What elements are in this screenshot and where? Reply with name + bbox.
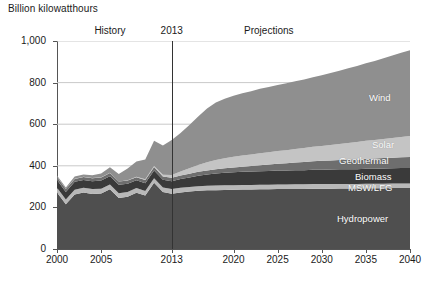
x-tick-label: 2000 bbox=[37, 254, 77, 265]
annotation-projections: Projections bbox=[244, 25, 293, 36]
x-tick-label: 2035 bbox=[346, 254, 386, 265]
x-tick-label: 2005 bbox=[81, 254, 121, 265]
x-tick-mark bbox=[101, 249, 102, 253]
x-tick-label: 2020 bbox=[214, 254, 254, 265]
y-tick-label: 600 bbox=[0, 118, 46, 129]
x-tick-mark bbox=[366, 249, 367, 253]
y-tick-label: 0 bbox=[0, 243, 46, 254]
x-tick-mark bbox=[410, 249, 411, 253]
y-tick-label: 800 bbox=[0, 77, 46, 88]
x-tick-mark bbox=[57, 249, 58, 253]
series-label-mswlfg: MSW/LFG bbox=[348, 182, 392, 193]
series-label-hydropower: Hydropower bbox=[337, 213, 388, 224]
series-label-wind: Wind bbox=[369, 92, 391, 103]
y-axis-title: Billion kilowatthours bbox=[8, 3, 98, 14]
annotation-divider-year: 2013 bbox=[161, 25, 183, 36]
y-tick-label: 400 bbox=[0, 160, 46, 171]
series-label-geothermal: Geothermal bbox=[339, 155, 389, 166]
x-tick-mark bbox=[234, 249, 235, 253]
x-tick-label: 2013 bbox=[152, 254, 192, 265]
annotation-history: History bbox=[94, 25, 125, 36]
x-tick-label: 2040 bbox=[390, 254, 426, 265]
series-label-biomass: Biomass bbox=[355, 171, 391, 182]
x-tick-mark bbox=[172, 249, 173, 253]
y-tick-label: 1,000 bbox=[0, 35, 46, 46]
projection-divider-line bbox=[172, 41, 173, 249]
x-tick-mark bbox=[322, 249, 323, 253]
x-tick-label: 2030 bbox=[302, 254, 342, 265]
y-tick-label: 200 bbox=[0, 201, 46, 212]
x-tick-label: 2025 bbox=[258, 254, 298, 265]
x-tick-mark bbox=[278, 249, 279, 253]
series-label-solar: Solar bbox=[372, 139, 394, 150]
